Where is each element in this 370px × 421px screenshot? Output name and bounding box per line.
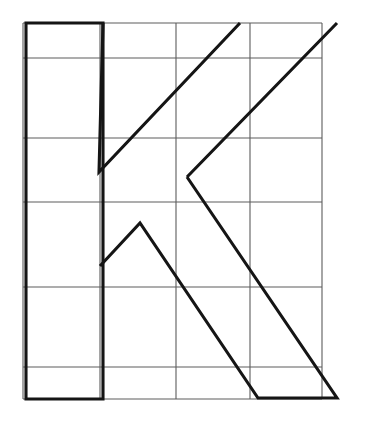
figure-canvas (0, 0, 370, 421)
letter-k-construction-figure (0, 0, 370, 421)
figure-background (0, 0, 370, 421)
